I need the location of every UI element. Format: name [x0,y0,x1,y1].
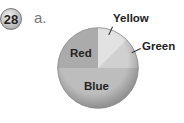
part-label: a. [34,9,47,26]
pie-chart [56,26,140,110]
slice-label-yellow: Yellow [113,12,149,24]
problem-number: 28 [4,12,18,27]
problem-number-badge: 28 [0,8,22,30]
slice-label-blue: Blue [84,80,109,92]
slice-label-red: Red [70,47,92,59]
slice-label-green: Green [142,40,175,52]
